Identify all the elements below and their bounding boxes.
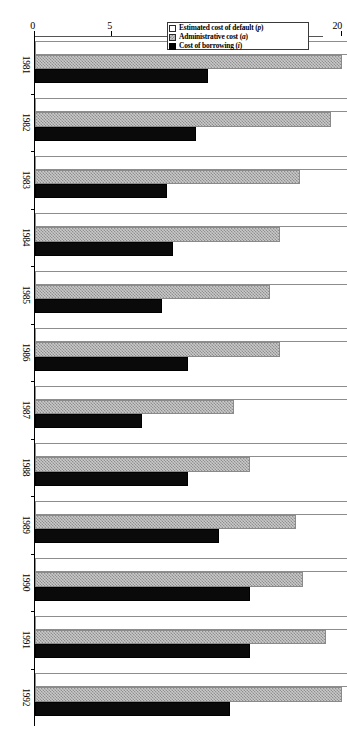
year-label: 1981 <box>21 36 31 94</box>
bar-i <box>35 242 173 256</box>
bar-p <box>35 443 347 457</box>
bar-group <box>35 496 323 554</box>
bar-a <box>35 630 326 644</box>
bar-group <box>35 554 323 612</box>
bar-a <box>35 285 270 299</box>
bar-p <box>35 156 347 170</box>
year-label: 1990 <box>21 554 31 612</box>
bar-a <box>35 457 250 471</box>
legend-item: Estimated cost of default (p) <box>169 24 305 32</box>
year-label: 1985 <box>21 266 31 324</box>
legend-swatch-i <box>169 43 176 50</box>
legend-swatch-a <box>169 34 176 41</box>
value-tick-label: 0 <box>9 21 35 31</box>
bar-group <box>35 381 323 439</box>
bar-a <box>35 400 234 414</box>
year-label: 1986 <box>21 324 31 382</box>
bar-i <box>35 414 142 428</box>
bar-i <box>35 69 208 83</box>
bar-group <box>35 266 323 324</box>
bar-group <box>35 94 323 152</box>
year-label: 1988 <box>21 439 31 497</box>
legend-label: Administrative cost (a) <box>179 33 248 41</box>
bar-p <box>35 271 347 285</box>
bar-i <box>35 644 250 658</box>
bar-p <box>35 501 347 515</box>
bar-i <box>35 587 250 601</box>
bar-group <box>35 611 323 669</box>
bar-i <box>35 472 188 486</box>
year-label: 1983 <box>21 151 31 209</box>
bar-groups <box>35 36 323 726</box>
year-label: 1992 <box>21 669 31 727</box>
bar-group <box>35 209 323 267</box>
bar-i <box>35 357 188 371</box>
bar-a <box>35 515 296 529</box>
bar-p <box>35 328 347 342</box>
bar-a <box>35 342 280 356</box>
bar-group <box>35 669 323 727</box>
bar-chart-plot: 454035302520151050 198119821983198419851… <box>0 0 347 746</box>
bar-a <box>35 227 280 241</box>
value-tick-label: 5 <box>86 21 112 31</box>
bar-group <box>35 151 323 209</box>
legend-item: Administrative cost (a) <box>169 33 305 41</box>
bar-i <box>35 184 167 198</box>
year-label: 1984 <box>21 209 31 267</box>
bar-a <box>35 112 331 126</box>
bar-a <box>35 55 342 69</box>
bar-a <box>35 572 303 586</box>
bar-a <box>35 170 300 184</box>
year-label: 1991 <box>21 611 31 669</box>
bar-group <box>35 439 323 497</box>
bar-i <box>35 127 196 141</box>
legend-item: Cost of borrowing (i) <box>169 42 305 50</box>
bar-p <box>35 616 347 630</box>
legend-label: Cost of borrowing (i) <box>179 42 242 50</box>
bar-p <box>35 98 347 112</box>
bar-i <box>35 702 230 716</box>
year-label: 1989 <box>21 496 31 554</box>
bar-p <box>35 213 347 227</box>
year-label: 1982 <box>21 94 31 152</box>
legend-items: Estimated cost of default (p)Administrat… <box>166 23 308 51</box>
bar-p <box>35 386 347 400</box>
legend-label: Estimated cost of default (p) <box>179 24 263 32</box>
chart-legend: Estimated cost of default (p)Administrat… <box>167 22 309 50</box>
year-label: 1987 <box>21 381 31 439</box>
value-tick <box>341 31 342 36</box>
bar-a <box>35 687 342 701</box>
bar-group <box>35 324 323 382</box>
bar-i <box>35 529 219 543</box>
legend-swatch-p <box>169 25 176 32</box>
bar-i <box>35 299 162 313</box>
value-tick-label: 20 <box>316 21 342 31</box>
chart-stage: 454035302520151050 198119821983198419851… <box>0 0 347 746</box>
bar-p <box>35 673 347 687</box>
bar-p <box>35 558 347 572</box>
